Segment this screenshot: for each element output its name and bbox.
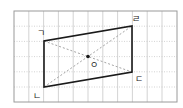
grid (14, 11, 177, 102)
parallelogram-diagram: ㄱ ㄴ ㄷ ㄹ ㅇ (0, 0, 183, 108)
label-nieun: ㄴ (33, 91, 41, 101)
label-digeut: ㄷ (135, 74, 143, 84)
grid-border (14, 11, 177, 102)
label-giyeok: ㄱ (37, 28, 45, 38)
label-center: ㅇ (90, 60, 98, 70)
label-rieul: ㄹ (132, 14, 140, 24)
center-point (86, 55, 90, 59)
